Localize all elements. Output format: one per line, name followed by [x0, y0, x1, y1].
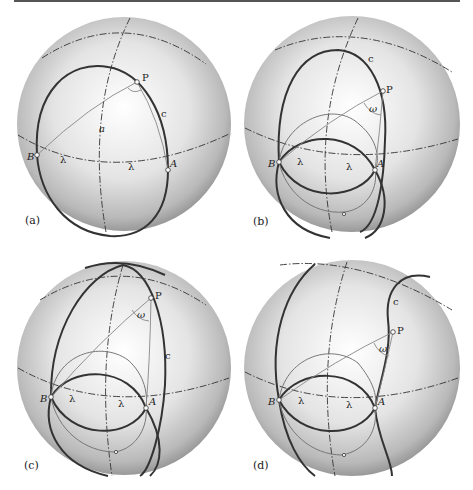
label-a: A [148, 396, 156, 407]
panel-label-b: (b) [253, 215, 269, 228]
point-p-b [381, 89, 386, 94]
point-b-d [277, 398, 282, 403]
pole-point-d [342, 453, 345, 456]
label-lambda-1: λ [60, 154, 67, 165]
panel-a: P c a B A λ λ (a) [17, 17, 231, 236]
label-b: B [26, 151, 34, 162]
label-lambda-2: λ [346, 161, 353, 172]
point-b-c [49, 395, 54, 400]
label-b: B [39, 393, 47, 404]
label-lambda-1: λ [69, 393, 76, 404]
label-arc-a: a [99, 123, 105, 134]
point-a-c [144, 406, 149, 411]
label-lambda-1: λ [297, 156, 304, 167]
label-lambda-2: λ [128, 161, 135, 172]
panel-c: P c ω B A λ λ (c) [17, 261, 231, 476]
label-omega: ω [137, 309, 145, 320]
label-lambda-2: λ [118, 398, 125, 409]
panel-d: P c ω B A λ λ (d) [244, 260, 460, 476]
label-c: c [393, 296, 399, 307]
sphere-a [17, 17, 231, 231]
label-c: c [368, 53, 374, 64]
point-p-d [391, 330, 396, 335]
panel-b: P c ω B A λ λ (b) [244, 16, 460, 238]
label-p: P [386, 84, 393, 95]
point-p-a [135, 80, 140, 85]
label-p: P [142, 72, 149, 83]
point-a-d [373, 406, 378, 411]
label-p: P [397, 325, 404, 336]
panel-label-c: (c) [24, 459, 39, 472]
label-b: B [267, 396, 275, 407]
sphere-c [17, 261, 231, 475]
panel-label-d: (d) [253, 459, 269, 472]
label-a: A [169, 158, 177, 169]
panel-label-a: (a) [25, 214, 40, 227]
label-c: c [165, 350, 171, 361]
sphere-b [244, 16, 460, 232]
label-p: P [155, 290, 162, 301]
pole-point-c [114, 450, 117, 453]
label-b: B [267, 158, 275, 169]
label-omega: ω [379, 343, 387, 354]
point-b-a [35, 153, 40, 158]
label-lambda-2: λ [346, 399, 353, 410]
label-a: A [377, 396, 385, 407]
label-omega: ω [369, 103, 377, 114]
point-p-c [149, 296, 154, 301]
label-lambda-1: λ [298, 395, 305, 406]
point-b-b [277, 160, 282, 165]
sphere-figure: P c a B A λ λ (a) P c ω B A λ λ (b) [0, 0, 473, 490]
pole-point-b [342, 212, 345, 215]
label-c: c [161, 108, 167, 119]
label-a: A [376, 158, 384, 169]
